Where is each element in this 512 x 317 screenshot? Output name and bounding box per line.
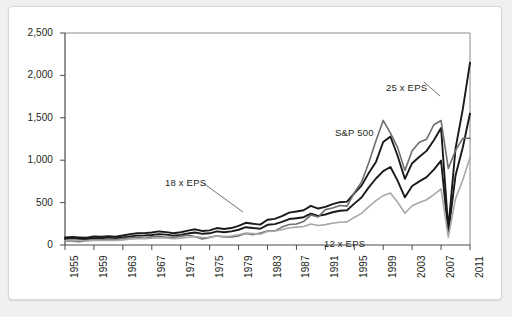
x-axis-tick-label: 1963 xyxy=(127,255,138,278)
y-axis-tick-label: 1,500 xyxy=(7,112,53,123)
y-axis-ticks xyxy=(60,33,65,245)
annotation-label-18-x-eps: 18 x EPS xyxy=(165,177,206,188)
x-axis-tick-label: 2007 xyxy=(445,255,456,278)
x-axis-tick-label: 1987 xyxy=(300,255,311,278)
x-axis-tick-label: 1971 xyxy=(185,255,196,278)
x-axis-tick-label: 1979 xyxy=(243,255,254,278)
x-axis-tick-label: 1991 xyxy=(329,255,340,278)
x-axis-ticks xyxy=(65,245,470,250)
annotation-label-s-p-500: S&P 500 xyxy=(335,127,374,138)
x-axis-tick-label: 1995 xyxy=(358,255,369,278)
y-axis-tick-label: 1,000 xyxy=(7,154,53,165)
y-axis-tick-label: 500 xyxy=(7,197,53,208)
x-axis-tick-label: 1999 xyxy=(387,255,398,278)
annotation-label-12-x-eps: 12 x EPS xyxy=(324,238,365,249)
x-axis-tick-label: 1955 xyxy=(69,255,80,278)
y-axis-tick-label: 0 xyxy=(7,239,53,250)
leader-line-18xeps xyxy=(203,183,243,212)
series-line-s-p-500 xyxy=(65,120,470,241)
y-axis-tick-label: 2,000 xyxy=(7,69,53,80)
x-axis-tick-label: 1959 xyxy=(98,255,109,278)
y-axis-tick-label: 2,500 xyxy=(7,27,53,38)
x-axis-tick-label: 2003 xyxy=(416,255,427,278)
x-axis-tick-label: 1983 xyxy=(272,255,283,278)
annotation-label-25-x-eps: 25 x EPS xyxy=(386,82,427,93)
x-axis-tick-label: 1975 xyxy=(214,255,225,278)
plot-area-border xyxy=(65,33,470,245)
x-axis-tick-label: 2011 xyxy=(474,256,485,278)
annotation-leader-lines xyxy=(203,82,440,212)
x-axis-tick-label: 1967 xyxy=(156,255,167,278)
